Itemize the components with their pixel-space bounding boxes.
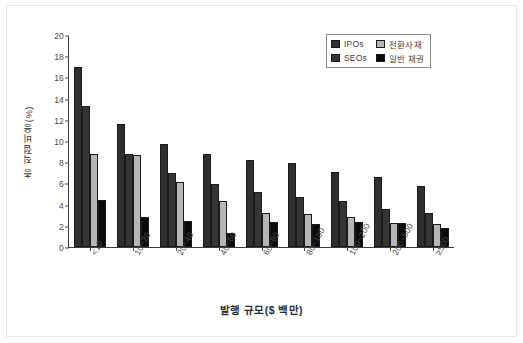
- bar: [374, 177, 382, 247]
- y-axis-title-text: 총 직접비용(%): [22, 106, 36, 178]
- x-axis-tick-label: 100~200: [325, 250, 368, 298]
- legend-swatch-convertible-bond: [376, 40, 385, 48]
- bar: [168, 173, 176, 247]
- legend-item-ipos: IPOs: [331, 38, 367, 50]
- legend-swatch-ipos: [331, 40, 340, 48]
- x-axis-tick-label: ≥500: [411, 250, 454, 298]
- legend-item-seos: SEOs: [331, 52, 367, 64]
- legend-swatch-straight-bond: [376, 54, 385, 62]
- bar: [246, 160, 254, 247]
- y-axis-title: 총 직접비용(%): [22, 36, 36, 248]
- bar: [288, 163, 296, 247]
- x-axis-tick-label: 40~60: [197, 250, 240, 298]
- bar: [74, 67, 82, 247]
- legend-item-straight-bond: 일반 채권: [376, 52, 424, 64]
- bar: [211, 184, 219, 247]
- bar: [339, 201, 347, 247]
- x-axis-tick-labels: <1010~2020~4040~6060~8080~100100~200200~…: [68, 250, 454, 298]
- bar: [133, 155, 141, 247]
- bar-group: [240, 36, 283, 247]
- bar: [82, 106, 90, 247]
- bar-group: [112, 36, 155, 247]
- chart-figure: 총 직접비용(%) 02468101214161820 <1010~2020~4…: [0, 0, 523, 343]
- x-axis-title: 발행 규모($ 백만): [0, 302, 523, 317]
- bar: [125, 154, 133, 247]
- legend-swatch-seos: [331, 54, 340, 62]
- bar: [160, 144, 168, 247]
- legend-label-convertible-bond: 전환사채: [389, 38, 422, 50]
- bar: [254, 192, 262, 247]
- y-axis-tick-mark: [65, 248, 69, 249]
- x-axis-tick-label: 200~500: [368, 250, 411, 298]
- bar: [417, 186, 425, 247]
- legend-label-seos: SEOs: [344, 53, 367, 63]
- bar: [90, 154, 98, 247]
- bar: [331, 172, 339, 247]
- bar: [382, 209, 390, 247]
- x-axis-tick-label: 60~80: [240, 250, 283, 298]
- bar-group: [69, 36, 112, 247]
- bar-group: [155, 36, 198, 247]
- x-axis-tick-label: 80~100: [282, 250, 325, 298]
- bar-group: [197, 36, 240, 247]
- legend-item-convertible-bond: 전환사채: [376, 38, 424, 50]
- x-axis-tick-label: 10~20: [111, 250, 154, 298]
- bar: [296, 197, 304, 247]
- legend-label-straight-bond: 일반 채권: [389, 52, 424, 64]
- x-axis-tick-label: <10: [68, 250, 111, 298]
- bar: [203, 154, 211, 247]
- chart-legend: IPOs 전환사채 SEOs 일반 채권: [326, 34, 431, 68]
- bar: [117, 124, 125, 247]
- bar: [425, 213, 433, 247]
- x-axis-tick-label: 20~40: [154, 250, 197, 298]
- bar-group: [283, 36, 326, 247]
- legend-label-ipos: IPOs: [344, 39, 364, 49]
